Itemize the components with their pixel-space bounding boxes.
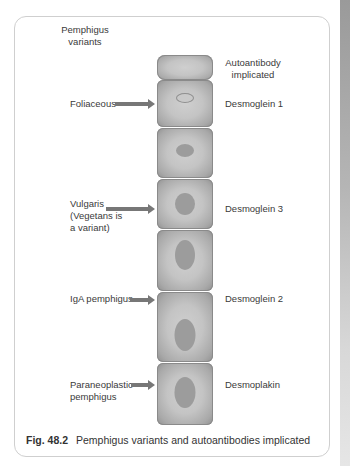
autoantibody-label-2: Desmoglein 2 <box>225 293 283 305</box>
header-right-line1: Autoantibody <box>225 57 281 69</box>
header-pemphigus-variants: Pemphigus variants <box>60 24 110 48</box>
cell-6 <box>157 363 213 425</box>
variant-line: pemphigus <box>70 391 133 403</box>
page-edge-strip <box>340 0 350 466</box>
header-right-line2: implicated <box>225 69 281 81</box>
figure-caption-text: Pemphigus variants and autoantibodies im… <box>76 434 310 446</box>
variant-label-iga: IgA pemphigus <box>70 293 133 305</box>
variant-line: Foliaceous <box>70 98 116 110</box>
variant-label-foliaceous: Foliaceous <box>70 98 116 110</box>
header-left-line2: variants <box>60 36 110 48</box>
header-autoantibody: Autoantibody implicated <box>225 57 281 81</box>
cell-nucleus <box>175 240 195 270</box>
cell-top-cap <box>157 55 213 80</box>
arrow-icon <box>106 207 148 211</box>
variant-line: a variant) <box>70 222 122 234</box>
variant-label-vulgaris: Vulgaris (Vegetans is a variant) <box>70 198 122 234</box>
variant-label-paraneoplastic: Paraneoplastic pemphigus <box>70 379 133 403</box>
cell-nucleus <box>176 93 194 103</box>
cell-nucleus <box>176 144 194 157</box>
autoantibody-label-3: Desmoglein 3 <box>225 203 283 215</box>
cell-nucleus <box>175 319 196 351</box>
cell-2 <box>157 128 213 178</box>
cell-5 <box>157 292 213 362</box>
arrow-icon <box>130 298 148 302</box>
arrow-icon <box>115 102 148 106</box>
cell-3 <box>157 179 213 229</box>
arrow-icon <box>131 383 148 387</box>
autoantibody-label-desmoplakin: Desmoplakin <box>225 379 280 391</box>
figure-caption: Fig. 48.2Pemphigus variants and autoanti… <box>26 434 310 446</box>
cell-nucleus <box>175 377 196 408</box>
cell-1 <box>157 80 213 127</box>
variant-line: Paraneoplastic <box>70 379 133 391</box>
autoantibody-label-1: Desmoglein 1 <box>225 98 283 110</box>
cell-4 <box>157 230 213 291</box>
variant-line: IgA pemphigus <box>70 293 133 305</box>
cell-nucleus <box>175 193 195 215</box>
figure-number: Fig. 48.2 <box>26 434 68 446</box>
variant-line: (Vegetans is <box>70 210 122 222</box>
header-left-line1: Pemphigus <box>60 24 110 36</box>
